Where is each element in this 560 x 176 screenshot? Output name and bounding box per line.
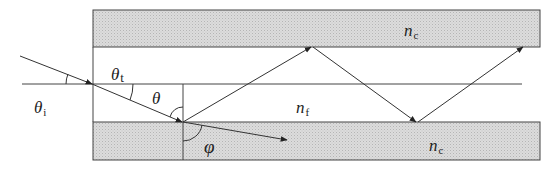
label-n-f: nf [296,99,309,118]
theta-i-subscript: i [43,106,46,118]
theta-t-subscript: t [120,70,124,85]
theta-i-symbol: θ [34,98,42,117]
label-theta-t: θt [111,66,124,84]
label-theta-i: θi [34,99,46,118]
bottom-cladding [93,122,540,160]
theta-t-symbol: θ [111,65,119,84]
diagram-drawing [0,0,560,176]
phi-symbol: φ [204,136,215,157]
n-c-top-symbol: n [404,21,413,40]
angle-arc-theta-t [130,84,133,100]
label-n-c-bottom: nc [429,137,443,156]
label-theta: θ [152,90,160,107]
theta-symbol: θ [152,89,160,108]
incident-ray [20,56,92,84]
top-cladding [93,10,540,47]
label-phi: φ [204,137,215,156]
angle-arc-theta [170,107,183,117]
n-c-bottom-subscript: c [439,144,444,156]
label-n-c-top: nc [404,22,418,41]
n-f-symbol: n [296,98,305,117]
angle-arc-theta-i [66,74,68,84]
n-c-top-subscript: c [414,29,419,41]
n-f-subscript: f [306,106,310,118]
refracted-ray [92,84,182,122]
n-c-bottom-symbol: n [429,136,438,155]
waveguide-diagram: θi θt θ φ nc nf nc [0,0,560,176]
